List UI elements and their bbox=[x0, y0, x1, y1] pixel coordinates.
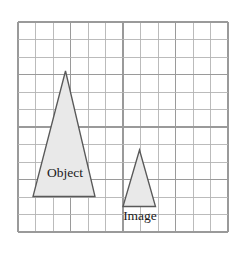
image-triangle-label: Image bbox=[123, 208, 157, 223]
object-triangle-label: Object bbox=[47, 165, 83, 180]
figure-container: ObjectImage bbox=[0, 0, 244, 261]
diagram-canvas: ObjectImage bbox=[0, 0, 244, 261]
